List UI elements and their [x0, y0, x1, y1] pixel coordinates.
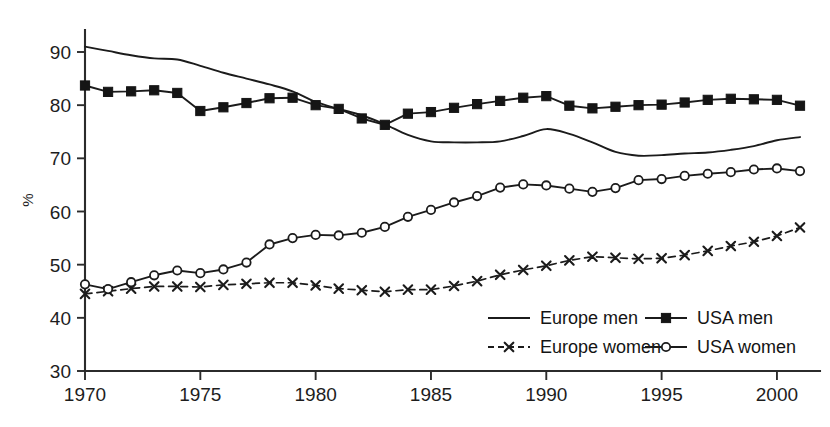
line-chart: 3040506070809019701975198019851990199520…	[0, 0, 830, 427]
y-axis-title: %	[19, 193, 36, 206]
data-point-marker	[519, 93, 528, 102]
data-point-marker	[173, 266, 181, 274]
data-point-marker	[542, 181, 550, 189]
data-point-marker	[127, 87, 136, 96]
data-point-marker	[450, 198, 458, 206]
data-point-marker	[426, 107, 435, 116]
data-point-marker	[219, 265, 227, 273]
y-tick-label: 50	[50, 255, 71, 276]
data-point-marker	[680, 98, 689, 107]
data-point-marker	[634, 101, 643, 110]
data-point-marker	[334, 104, 343, 113]
data-point-marker	[611, 102, 620, 111]
data-point-marker	[380, 120, 389, 129]
data-point-marker	[496, 183, 504, 191]
series-usa-women	[81, 164, 804, 293]
data-point-marker	[472, 100, 481, 109]
y-tick-label: 80	[50, 95, 71, 116]
legend-label: Europe men	[540, 308, 638, 328]
data-point-marker	[311, 231, 319, 239]
chart-legend: Europe menUSA menEurope womenUSA women	[488, 308, 796, 357]
series-path	[85, 86, 800, 125]
y-tick-label: 40	[50, 308, 71, 329]
x-tick-label: 2000	[756, 384, 798, 405]
series-path	[85, 168, 800, 289]
y-tick-label: 90	[50, 42, 71, 63]
data-point-marker	[473, 192, 481, 200]
x-tick-label: 1975	[179, 384, 221, 405]
chart-figure: 3040506070809019701975198019851990199520…	[0, 0, 830, 427]
data-point-marker	[404, 213, 412, 221]
data-point-marker	[196, 106, 205, 115]
data-point-marker	[242, 258, 250, 266]
data-point-marker	[173, 88, 182, 97]
data-point-marker	[726, 94, 735, 103]
data-point-marker	[796, 167, 804, 175]
data-point-marker	[427, 206, 435, 214]
x-tick-label: 1995	[640, 384, 682, 405]
data-point-marker	[634, 176, 642, 184]
series-path	[85, 227, 800, 293]
data-point-marker	[288, 234, 296, 242]
y-tick-label: 30	[50, 361, 71, 382]
data-point-marker	[749, 95, 758, 104]
data-point-marker	[127, 278, 135, 286]
data-point-marker	[542, 92, 551, 101]
data-point-marker	[796, 223, 805, 232]
data-point-marker	[150, 86, 159, 95]
data-point-marker	[704, 170, 712, 178]
series-usa-men	[80, 81, 804, 130]
x-tick-label: 1970	[64, 384, 106, 405]
data-point-marker	[773, 164, 781, 172]
x-tick-label: 1990	[525, 384, 567, 405]
data-point-marker	[611, 184, 619, 192]
data-point-marker	[381, 223, 389, 231]
data-point-marker	[150, 271, 158, 279]
data-point-marker	[104, 285, 112, 293]
x-tick-label: 1985	[410, 384, 452, 405]
data-point-marker	[357, 114, 366, 123]
data-point-marker	[657, 100, 666, 109]
data-point-marker	[496, 96, 505, 105]
data-point-marker	[795, 101, 804, 110]
data-point-marker	[727, 168, 735, 176]
legend-circle-marker	[662, 343, 670, 351]
legend-item-usa-women[interactable]: USA women	[645, 337, 796, 357]
data-point-marker	[449, 103, 458, 112]
data-point-marker	[81, 280, 89, 288]
y-tick-label: 70	[50, 148, 71, 169]
data-point-marker	[103, 87, 112, 96]
legend-label: USA men	[697, 308, 773, 328]
data-point-marker	[335, 231, 343, 239]
legend-item-europe-women[interactable]: Europe women	[488, 337, 661, 357]
data-point-marker	[358, 229, 366, 237]
data-point-marker	[403, 109, 412, 118]
series-europe-women	[81, 223, 805, 298]
y-tick-label: 60	[50, 202, 71, 223]
legend-item-usa-men[interactable]: USA men	[645, 308, 773, 328]
data-point-marker	[588, 188, 596, 196]
legend-item-europe-men[interactable]: Europe men	[488, 308, 638, 328]
legend-label: Europe women	[540, 337, 661, 357]
legend-square-marker	[661, 313, 670, 322]
data-point-marker	[519, 180, 527, 188]
data-series	[80, 47, 804, 299]
data-point-marker	[772, 95, 781, 104]
data-point-marker	[219, 103, 228, 112]
data-point-marker	[311, 101, 320, 110]
data-point-marker	[565, 101, 574, 110]
data-point-marker	[657, 175, 665, 183]
data-point-marker	[565, 184, 573, 192]
data-point-marker	[588, 104, 597, 113]
data-point-marker	[750, 165, 758, 173]
data-point-marker	[265, 240, 273, 248]
data-point-marker	[703, 95, 712, 104]
legend-label: USA women	[697, 337, 796, 357]
data-point-marker	[242, 98, 251, 107]
data-point-marker	[80, 81, 89, 90]
data-point-marker	[680, 172, 688, 180]
x-tick-label: 1980	[295, 384, 337, 405]
data-point-marker	[288, 93, 297, 102]
data-point-marker	[196, 269, 204, 277]
data-point-marker	[265, 94, 274, 103]
